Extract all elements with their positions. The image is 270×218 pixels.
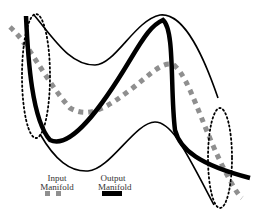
legend-input-swatch-square	[56, 191, 61, 196]
legend-input-label: Input Manifold	[40, 174, 74, 192]
legend-output-label: Output Manifold	[98, 174, 128, 192]
output-manifold-curve	[26, 16, 250, 178]
legend-input-swatch-square	[45, 191, 50, 196]
input-manifold-curve	[10, 27, 242, 198]
lower-envelope-curve	[40, 122, 214, 205]
legend-output-swatch	[102, 191, 122, 196]
upper-envelope-curve	[34, 15, 218, 98]
legend-input-swatch	[45, 191, 64, 196]
